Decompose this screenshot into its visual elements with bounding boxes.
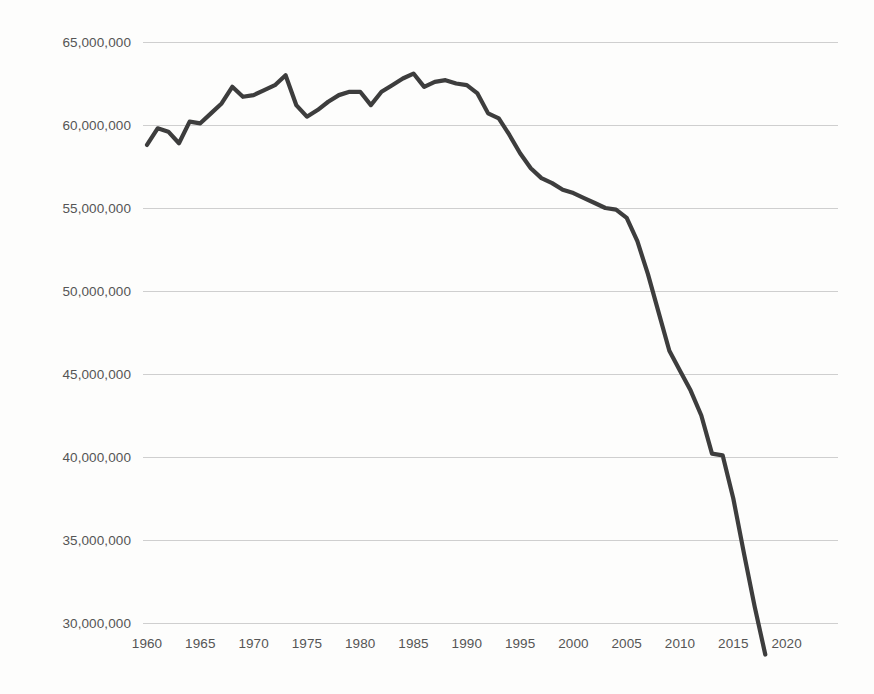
x-axis-tick-label: 2015 <box>718 636 748 651</box>
x-axis-tick-label: 2020 <box>771 636 801 651</box>
y-axis-tick-label: 50,000,000 <box>62 284 131 299</box>
x-axis-tick-label: 1995 <box>505 636 535 651</box>
y-axis-tick-label: 35,000,000 <box>62 533 131 548</box>
x-axis-tick-label: 1970 <box>238 636 268 651</box>
y-axis-tick-label: 45,000,000 <box>62 367 131 382</box>
y-axis-tick-label: 30,000,000 <box>62 616 131 631</box>
data-series-group <box>147 74 765 655</box>
y-axis-tick-labels: 65,000,00060,000,00055,000,00050,000,000… <box>62 35 131 631</box>
x-axis-tick-labels: 1960196519701975198019851990199520002005… <box>132 636 802 651</box>
chart-container: 65,000,00060,000,00055,000,00050,000,000… <box>0 0 874 694</box>
data-line-series-0 <box>147 74 765 655</box>
x-axis-tick-label: 1980 <box>345 636 375 651</box>
x-axis-tick-label: 2010 <box>665 636 695 651</box>
x-axis-tick-label: 1965 <box>185 636 215 651</box>
x-axis-tick-label: 1990 <box>452 636 482 651</box>
x-axis-tick-label: 1985 <box>398 636 428 651</box>
gridlines <box>143 42 838 623</box>
x-axis-tick-label: 1960 <box>132 636 162 651</box>
x-axis-tick-label: 1975 <box>292 636 322 651</box>
y-axis-tick-label: 40,000,000 <box>62 450 131 465</box>
y-axis-tick-label: 60,000,000 <box>62 118 131 133</box>
y-axis-tick-label: 65,000,000 <box>62 35 131 50</box>
line-chart: 65,000,00060,000,00055,000,00050,000,000… <box>0 0 874 694</box>
y-axis-tick-label: 55,000,000 <box>62 201 131 216</box>
x-axis-tick-label: 2005 <box>611 636 641 651</box>
x-axis-tick-label: 2000 <box>558 636 588 651</box>
